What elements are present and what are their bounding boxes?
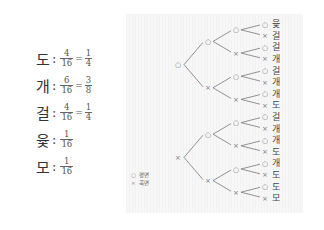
- tree-branch: [241, 95, 260, 100]
- outcome-label: 개: [272, 124, 280, 134]
- tree-branch: [241, 53, 260, 58]
- outcome-label: 개: [272, 135, 280, 145]
- tree-branch: [241, 141, 260, 146]
- tree-branch: [241, 76, 260, 81]
- curved-node-icon: ×: [262, 171, 268, 179]
- flat-node-icon: ○: [262, 160, 268, 168]
- curved-node-icon: ×: [175, 154, 181, 162]
- tree-branch: [213, 77, 231, 88]
- curved-node-icon: ×: [205, 177, 211, 185]
- outcome-label: 도: [272, 147, 280, 157]
- tree-branch: [241, 192, 260, 197]
- curved-node-icon: ×: [262, 55, 268, 63]
- legend-item-flat: ○평면: [131, 171, 149, 179]
- curved-node-icon: ×: [233, 189, 239, 197]
- flat-node-icon: ○: [262, 21, 268, 29]
- flat-node-icon: ○: [262, 67, 268, 75]
- tree-branch: [241, 25, 260, 30]
- tree-branch: [241, 30, 260, 35]
- legend-item-curved: ×곡면: [131, 179, 149, 187]
- outcome-label: 모: [272, 193, 280, 203]
- outcome-label: 걸: [272, 31, 280, 41]
- curved-node-icon: ×: [262, 148, 268, 156]
- tree-branch: [241, 164, 260, 169]
- tree-branch: [241, 99, 260, 104]
- flat-node-icon: ○: [205, 38, 211, 46]
- curved-node-icon: ×: [262, 125, 268, 133]
- tree-branch: [213, 134, 231, 145]
- outcome-label: 도: [272, 100, 280, 110]
- flat-node-icon: ○: [175, 61, 181, 69]
- outcome-label: 개: [272, 54, 280, 64]
- flat-node-icon: ○: [233, 119, 239, 127]
- flat-node-icon: ○: [262, 44, 268, 52]
- flat-node-icon: ○: [262, 90, 268, 98]
- flat-node-icon: ○: [262, 183, 268, 191]
- flat-node-icon: ○: [262, 113, 268, 121]
- tree-branch: [213, 181, 231, 192]
- outcome-label: 걸: [272, 66, 280, 76]
- flat-node-icon: ○: [262, 137, 268, 145]
- curved-node-icon: ×: [233, 142, 239, 150]
- flat-node-icon: ○: [205, 131, 211, 139]
- tree-branch: [213, 31, 231, 42]
- flat-node-icon: ○: [233, 166, 239, 174]
- outcome-label: 개: [272, 89, 280, 99]
- curved-node-icon: ×: [233, 96, 239, 104]
- curved-node-icon: ×: [262, 102, 268, 110]
- curved-node-icon: ×: [262, 79, 268, 87]
- flat-node-icon: ○: [233, 26, 239, 34]
- tree-branch: [184, 42, 203, 64]
- curved-node-icon: ×: [262, 32, 268, 40]
- tree-branch: [184, 157, 203, 179]
- legend: ○평면 ×곡면: [131, 171, 149, 187]
- outcome-label: 윷: [272, 19, 280, 29]
- tree-branch: [184, 135, 203, 157]
- tree-branch: [241, 118, 260, 123]
- tree-branch: [241, 123, 260, 128]
- tree-branch: [213, 124, 231, 135]
- tree-branch: [184, 65, 203, 87]
- tree-branch: [241, 146, 260, 151]
- curved-node-icon: ×: [205, 84, 211, 92]
- outcome-label: 개: [272, 77, 280, 87]
- tree-diagram: ○○○○윷×걸×○걸×개×○○걸×개×○개×도×○○○걸×개×○개×도×○○개×…: [0, 0, 324, 230]
- curved-node-icon: ×: [262, 195, 268, 203]
- outcome-label: 도: [272, 170, 280, 180]
- outcome-label: 걸: [272, 42, 280, 52]
- outcome-label: 개: [272, 158, 280, 168]
- tree-branch: [241, 187, 260, 192]
- flat-node-icon: ○: [233, 73, 239, 81]
- outcome-label: 도: [272, 182, 280, 192]
- tree-branch: [213, 170, 231, 181]
- tree-branch: [213, 41, 231, 52]
- curved-node-icon: ×: [233, 50, 239, 58]
- tree-branch: [241, 48, 260, 53]
- tree-branch: [213, 88, 231, 99]
- outcome-label: 걸: [272, 112, 280, 122]
- tree-branch: [241, 71, 260, 76]
- tree-branch: [241, 169, 260, 174]
